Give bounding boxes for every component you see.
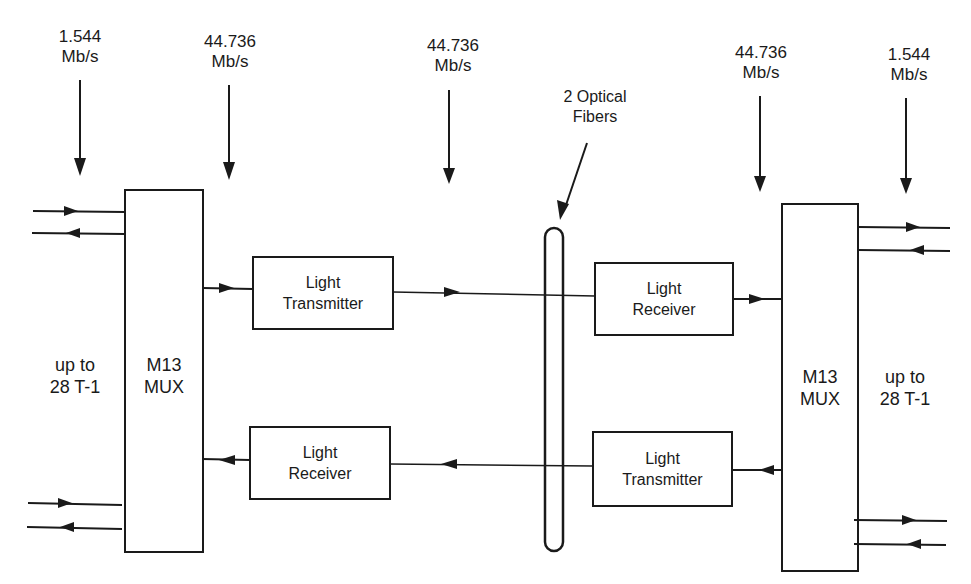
rate-value: 1.544 xyxy=(879,45,939,65)
optical-fiber-bundle xyxy=(545,228,563,551)
diagram-lines xyxy=(0,0,971,584)
rate-label-left-t1: 1.544 Mb/s xyxy=(50,27,110,67)
block-label-line2: Transmitter xyxy=(622,469,702,490)
left-tributary-label: up to 28 T-1 xyxy=(30,354,120,398)
rate-unit: Mb/s xyxy=(50,47,110,67)
rate-value: 44.736 xyxy=(195,32,265,52)
tributary-label-line2: 28 T-1 xyxy=(30,376,120,398)
mux-label-line2: MUX xyxy=(125,376,203,398)
optical-fibers-label: 2 Optical Fibers xyxy=(540,87,650,127)
tributary-label-line1: up to xyxy=(30,354,120,376)
block-label-line1: Light xyxy=(647,278,682,299)
rate-value: 1.544 xyxy=(50,27,110,47)
fiber-label-line1: 2 Optical xyxy=(540,87,650,107)
rate-label-right-t1: 1.544 Mb/s xyxy=(879,45,939,85)
block-label-line2: Transmitter xyxy=(283,293,363,314)
block-label-line2: Receiver xyxy=(288,463,351,484)
mux-label-line1: M13 xyxy=(782,366,858,388)
block-label-line2: Receiver xyxy=(632,299,695,320)
block-label-line1: Light xyxy=(303,442,338,463)
right-mux-label: M13 MUX xyxy=(782,366,858,410)
right-tributary-label: up to 28 T-1 xyxy=(860,366,950,410)
mux-label-line2: MUX xyxy=(782,388,858,410)
tributary-label-line1: up to xyxy=(860,366,950,388)
top-light-receiver: Light Receiver xyxy=(595,263,733,335)
rate-unit: Mb/s xyxy=(726,63,796,83)
bottom-light-receiver: Light Receiver xyxy=(250,427,390,499)
rate-label-middle-ds3: 44.736 Mb/s xyxy=(418,36,488,76)
rate-label-left-ds3: 44.736 Mb/s xyxy=(195,32,265,72)
fiber-label-line2: Fibers xyxy=(540,107,650,127)
top-light-transmitter: Light Transmitter xyxy=(253,257,393,329)
rate-unit: Mb/s xyxy=(879,65,939,85)
block-label-line1: Light xyxy=(306,272,341,293)
tributary-label-line2: 28 T-1 xyxy=(860,388,950,410)
rate-label-right-ds3: 44.736 Mb/s xyxy=(726,43,796,83)
mux-label-line1: M13 xyxy=(125,354,203,376)
bottom-light-transmitter: Light Transmitter xyxy=(593,432,732,506)
rate-unit: Mb/s xyxy=(418,56,488,76)
rate-unit: Mb/s xyxy=(195,52,265,72)
left-mux-label: M13 MUX xyxy=(125,354,203,398)
rate-value: 44.736 xyxy=(726,43,796,63)
block-label-line1: Light xyxy=(645,448,680,469)
rate-value: 44.736 xyxy=(418,36,488,56)
